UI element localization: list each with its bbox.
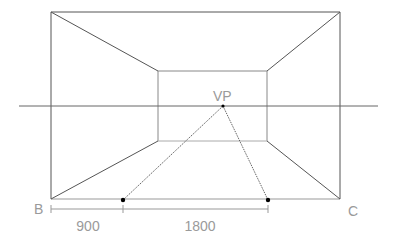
perspective-diagram: VP B C 900 1800 (0, 0, 399, 245)
measure-point-1800 (266, 198, 270, 202)
dimension-label-900: 900 (76, 218, 100, 234)
vanishing-point (221, 104, 224, 107)
diagonal-bottom-right (267, 141, 340, 199)
vp-line-left (123, 106, 223, 200)
diagonal-bottom-left (51, 141, 158, 199)
diagonal-top-right (267, 12, 340, 71)
vp-projection-lines (123, 106, 268, 200)
dimension-label-1800: 1800 (184, 218, 215, 234)
diagonal-top-left (51, 12, 158, 71)
dimension-line (51, 205, 268, 213)
vp-line-right (223, 106, 268, 200)
vp-label: VP (213, 88, 232, 104)
point-b-label: B (34, 201, 43, 217)
measure-point-900 (121, 198, 125, 202)
point-c-label: C (348, 203, 358, 219)
